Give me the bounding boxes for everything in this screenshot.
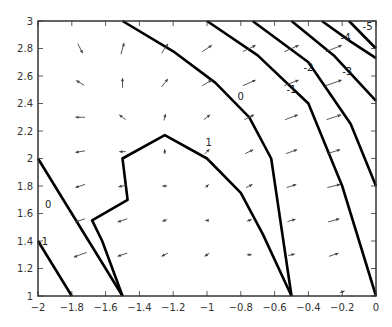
contour-line-1 <box>92 135 291 296</box>
quiver-arrow-icon <box>327 114 341 119</box>
contour-label: 0 <box>45 199 51 210</box>
quiver-arrow-icon <box>119 150 125 153</box>
quiver-arrow-icon <box>287 184 297 188</box>
quiver-arrow-icon <box>75 116 85 119</box>
contour-quiver-chart: 100-1-1-2-3-4-5 −2−1.8−1.6−1.4−1.2−1−0.8… <box>0 0 392 327</box>
quiver-arrow-icon <box>286 149 297 153</box>
quiver-arrow-icon <box>247 253 252 256</box>
contour-line--1 <box>38 241 72 296</box>
y-tick-label: 1.6 <box>17 208 33 219</box>
quiver-arrow-icon <box>327 184 340 188</box>
x-tick-label: −1 <box>200 302 215 313</box>
quiver-arrow-icon <box>328 218 339 222</box>
quiver-arrow-icon <box>162 79 168 87</box>
contour-label: -1 <box>38 236 48 247</box>
quiver-arrow-icon <box>78 44 83 54</box>
quiver-arrow-icon <box>162 253 168 256</box>
y-axis-ticks: 11.21.41.61.822.22.42.62.83 <box>17 16 376 302</box>
y-tick-label: 1.2 <box>17 263 33 274</box>
quiver-arrow-icon <box>202 80 212 86</box>
quiver-arrow-icon <box>121 43 125 54</box>
x-tick-label: −0.4 <box>296 302 320 313</box>
quiver-arrow-icon <box>326 45 342 52</box>
quiver-arrow-icon <box>75 219 85 223</box>
quiver-arrow-icon <box>74 252 87 257</box>
contour-label: 1 <box>206 137 212 148</box>
x-tick-label: −0.6 <box>262 302 286 313</box>
contour-label: -5 <box>363 21 373 32</box>
y-tick-label: 2.2 <box>17 126 33 137</box>
quiver-arrow-icon <box>163 114 166 120</box>
x-tick-label: −1.2 <box>161 302 185 313</box>
quiver-arrow-icon <box>243 80 256 86</box>
x-tick-label: −1.4 <box>127 302 151 313</box>
quiver-arrow-icon <box>205 184 208 187</box>
y-tick-label: 2.6 <box>17 71 33 82</box>
quiver-arrow-icon <box>162 219 167 222</box>
quiver-arrow-icon <box>121 78 124 88</box>
quiver-arrow-icon <box>329 253 339 257</box>
contour-label: -2 <box>303 62 313 73</box>
contour-label: -4 <box>341 32 351 43</box>
y-tick-label: 3 <box>27 16 33 27</box>
y-tick-label: 2.8 <box>17 43 33 54</box>
quiver-arrow-icon <box>119 115 125 120</box>
x-tick-label: 0 <box>373 302 379 313</box>
quiver-arrow-icon <box>162 184 167 187</box>
y-tick-label: 1 <box>27 291 33 302</box>
x-tick-label: −0.2 <box>330 302 354 313</box>
quiver-arrow-icon <box>205 149 210 154</box>
contour-line-0 <box>38 159 123 297</box>
x-axis-ticks: −2−1.8−1.6−1.4−1.2−1−0.8−0.6−0.4−0.20 <box>31 21 380 313</box>
contour-label: -3 <box>342 66 352 77</box>
quiver-arrow-icon <box>288 253 294 256</box>
quiver-arrow-icon <box>247 219 252 222</box>
y-tick-label: 2 <box>27 153 33 164</box>
x-tick-label: −2 <box>31 302 46 313</box>
quiver-arrow-icon <box>326 80 342 86</box>
quiver-arrow-icon <box>118 253 128 257</box>
quiver-arrow-icon <box>205 253 210 256</box>
quiver-arrow-icon <box>204 115 210 120</box>
y-tick-label: 1.4 <box>17 236 33 247</box>
quiver-arrow-icon <box>202 45 212 51</box>
quiver-arrow-icon <box>245 150 253 154</box>
y-tick-label: 1.8 <box>17 181 33 192</box>
x-tick-label: −1.8 <box>60 302 84 313</box>
quiver-arrows <box>74 43 345 294</box>
contour-label: 0 <box>238 91 244 102</box>
x-tick-label: −1.6 <box>93 302 117 313</box>
quiver-arrow-icon <box>285 114 298 119</box>
quiver-arrow-icon <box>75 150 85 153</box>
quiver-arrow-icon <box>288 219 296 222</box>
quiver-arrow-icon <box>163 149 166 154</box>
quiver-arrow-icon <box>76 80 84 85</box>
contour-labels: 100-1-1-2-3-4-5 <box>38 21 372 248</box>
x-tick-label: −0.8 <box>229 302 253 313</box>
quiver-arrow-icon <box>75 184 85 188</box>
y-tick-label: 2.4 <box>17 98 33 109</box>
quiver-arrow-icon <box>205 219 208 222</box>
quiver-arrow-icon <box>246 184 252 187</box>
contour-label: -1 <box>287 84 297 95</box>
quiver-arrow-icon <box>118 219 128 223</box>
